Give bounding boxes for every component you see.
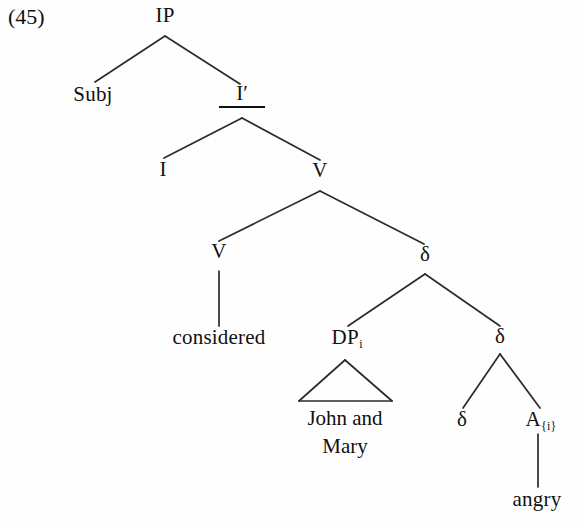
node-i-bar-label: I′ bbox=[219, 83, 265, 104]
node-subj: Subj bbox=[73, 84, 112, 105]
node-a-subscript: {i} bbox=[541, 419, 556, 433]
node-delta-top: δ bbox=[420, 244, 430, 265]
tree-branch-lines bbox=[0, 0, 584, 529]
node-delta-leaf: δ bbox=[457, 409, 467, 430]
terminal-john-and-mary-line1: John and bbox=[307, 404, 382, 432]
node-dp-subscript: i bbox=[359, 337, 363, 351]
terminal-john-and-mary: John and Mary bbox=[307, 404, 382, 461]
terminal-john-and-mary-line2: Mary bbox=[307, 432, 382, 460]
node-v-lower: V bbox=[211, 241, 226, 262]
node-i-head: I bbox=[159, 159, 166, 180]
node-v-upper: V bbox=[312, 160, 327, 181]
node-i-bar: I′ bbox=[219, 83, 265, 108]
node-a-head: A{i} bbox=[526, 409, 557, 430]
terminal-considered: considered bbox=[173, 327, 266, 348]
node-ip: IP bbox=[155, 5, 174, 26]
node-dp: DPi bbox=[332, 327, 363, 348]
figure-canvas: (45) bbox=[0, 0, 584, 529]
terminal-angry: angry bbox=[513, 489, 562, 510]
node-delta-mid: δ bbox=[495, 326, 505, 347]
i-bar-underline bbox=[219, 106, 265, 108]
